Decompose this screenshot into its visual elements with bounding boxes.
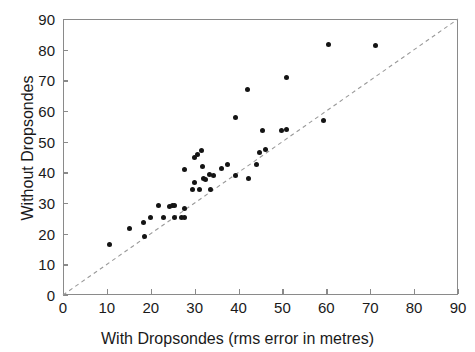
data-point [161, 215, 166, 220]
data-point [373, 43, 378, 48]
y-tick-label: 10 [38, 257, 55, 272]
y-tick-label: 40 [38, 165, 55, 180]
data-point [257, 150, 262, 155]
data-point [192, 180, 197, 185]
data-point [192, 155, 197, 160]
y-axis-label: Without Dropsondes [19, 38, 37, 258]
x-tick-label: 70 [362, 300, 379, 315]
data-point [208, 187, 213, 192]
data-point [182, 215, 187, 220]
data-point [127, 226, 132, 231]
data-point [197, 187, 202, 192]
y-tick-label: 60 [38, 104, 55, 119]
data-point [321, 118, 326, 123]
data-point [172, 203, 177, 208]
x-tick-label: 10 [99, 300, 116, 315]
data-point [148, 215, 153, 220]
x-tick-label: 40 [230, 300, 247, 315]
x-tick-mark [458, 289, 459, 294]
x-tick-label: 80 [406, 300, 423, 315]
y-axis-label-wrap: Without Dropsondes [10, 19, 34, 295]
data-point [182, 167, 187, 172]
y-tick-label: 80 [38, 42, 55, 57]
x-tick-label: 90 [450, 300, 467, 315]
x-tick-label: 20 [142, 300, 159, 315]
data-point [141, 220, 146, 225]
reference-line-one-to-one [63, 19, 458, 295]
y-tick-label: 50 [38, 134, 55, 149]
data-point [326, 42, 331, 47]
y-tick-label: 20 [38, 226, 55, 241]
data-point [172, 215, 177, 220]
y-tick-label: 70 [38, 73, 55, 88]
scatter-plot-figure: 0102030405060708090 0102030405060708090 … [0, 0, 475, 352]
data-point [245, 87, 250, 92]
data-point [211, 173, 216, 178]
data-point [246, 176, 251, 181]
data-point [182, 206, 187, 211]
y-tick-mark [63, 295, 68, 296]
x-tick-label: 0 [59, 300, 67, 315]
y-tick-label: 30 [38, 196, 55, 211]
x-tick-label: 60 [318, 300, 335, 315]
x-tick-label: 30 [186, 300, 203, 315]
x-axis-label: With Dropsondes (rms error in metres) [0, 330, 475, 348]
plot-area [63, 19, 458, 295]
data-point [233, 173, 238, 178]
y-tick-label: 90 [38, 12, 55, 27]
data-point [200, 164, 205, 169]
x-tick-label: 50 [274, 300, 291, 315]
y-tick-label: 0 [47, 288, 55, 303]
